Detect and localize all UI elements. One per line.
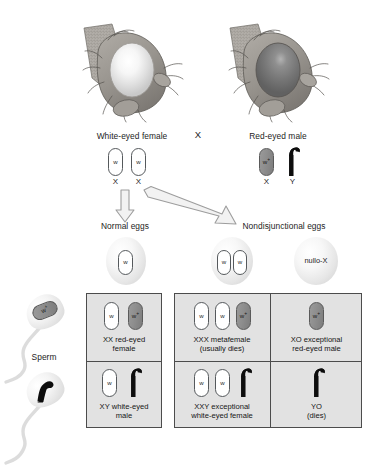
normal-eggs-label: Normal eggs xyxy=(78,221,172,232)
female-chromosome-x2: w xyxy=(131,148,146,176)
nondisjunctional-eggs-label: Nondisjunctional eggs xyxy=(214,221,354,232)
offspring-chromosome-w-2: w xyxy=(215,302,230,330)
allele-label: w+ xyxy=(313,313,320,319)
allele-label: w xyxy=(123,259,127,265)
offspring-chromosome-w-2: w xyxy=(215,369,230,397)
normal-eggs-arrow-icon xyxy=(114,189,136,223)
allele-label: w xyxy=(220,380,224,386)
offspring-cell-text-line1: XX red-eyed xyxy=(86,335,162,344)
offspring-cell-text-line2: female xyxy=(86,344,162,353)
allele-label: w xyxy=(109,313,113,319)
offspring-chromosome-w: w xyxy=(104,302,119,330)
offspring-cell-text-line2: (usually dies) xyxy=(174,344,270,353)
offspring-cell-xxy-exceptional-white-eyed-female: w w XXY exceptional white-eyed female xyxy=(174,362,270,428)
male-chromosome-y xyxy=(283,146,301,177)
nullo-x-label: nullo-X xyxy=(294,256,338,265)
allele-label: w xyxy=(222,259,226,265)
offspring-cell-text-line1: XY white-eyed xyxy=(86,402,162,411)
nondisjunction-arrow-icon xyxy=(142,186,238,226)
offspring-chromosome-w: w xyxy=(102,369,117,397)
allele-label: w xyxy=(238,259,242,265)
offspring-cell-xo-exceptional-red-eyed-male: w+ XO exceptional red-eyed male xyxy=(271,293,362,361)
allele-label: w+ xyxy=(263,159,270,165)
allele-label: w xyxy=(107,380,111,386)
offspring-cell-text-line1: XXX metafemale xyxy=(174,335,270,344)
offspring-cell-text-line1: XO exceptional xyxy=(271,335,362,344)
offspring-chromosome-w-1: w xyxy=(194,302,209,330)
offspring-cell-text-line1: XXY exceptional xyxy=(174,402,270,411)
offspring-cell-yo-dies: YO (dies) xyxy=(271,362,362,428)
offspring-cell-xx-red-eyed-female: w w+ XX red-eyed female xyxy=(86,293,162,361)
parent-female-label: White-eyed female xyxy=(70,131,194,142)
sperm-label: Sperm xyxy=(20,352,68,363)
cross-symbol: X xyxy=(188,130,208,141)
male-chromosome-x-axis: X xyxy=(256,177,277,188)
nondisjunctional-egg-chromosome-1: w xyxy=(217,250,231,275)
female-chromosome-x1-axis: X xyxy=(105,177,126,188)
offspring-chromosome-y xyxy=(308,367,326,398)
offspring-cell-text-line2: (dies) xyxy=(271,411,362,420)
offspring-chromosome-y xyxy=(235,367,253,398)
offspring-cell-text-line2: male xyxy=(86,411,162,420)
nondisjunctional-egg-chromosome-2: w xyxy=(233,250,247,275)
normal-egg-chromosome: w xyxy=(118,250,133,275)
allele-label: w+ xyxy=(132,313,139,319)
allele-label: w xyxy=(113,159,117,165)
offspring-cell-text-line2: red-eyed male xyxy=(271,344,362,353)
figure-root: White-eyed female X Red-eyed male w w X … xyxy=(0,0,380,473)
allele-label: w xyxy=(199,313,203,319)
offspring-chromosome-w-1: w xyxy=(194,369,209,397)
offspring-cell-text-line2: white-eyed female xyxy=(174,411,270,420)
parent-male-label: Red-eyed male xyxy=(218,131,338,142)
offspring-chromosome-w-plus: w+ xyxy=(128,302,143,330)
offspring-chromosome-y xyxy=(125,367,143,398)
allele-label: w xyxy=(199,380,203,386)
male-chromosome-y-axis: Y xyxy=(282,177,303,188)
offspring-cell-text-line1: YO xyxy=(271,402,362,411)
offspring-chromosome-w-plus: w+ xyxy=(236,302,251,330)
allele-label: w xyxy=(136,159,140,165)
allele-label: w xyxy=(220,313,224,319)
fly-head-white-eyed-female xyxy=(78,18,186,126)
offspring-cell-xy-white-eyed-male: w XY white-eyed male xyxy=(86,362,162,428)
male-chromosome-x: w+ xyxy=(259,148,274,176)
fly-head-red-eyed-male xyxy=(224,18,332,126)
offspring-cell-xxx-metafemale: w w w+ XXX metafemale (usually dies) xyxy=(174,293,270,361)
allele-label: w+ xyxy=(40,306,49,315)
allele-label: w+ xyxy=(240,313,247,319)
offspring-chromosome-w-plus: w+ xyxy=(309,302,324,330)
female-chromosome-x1: w xyxy=(108,148,123,176)
